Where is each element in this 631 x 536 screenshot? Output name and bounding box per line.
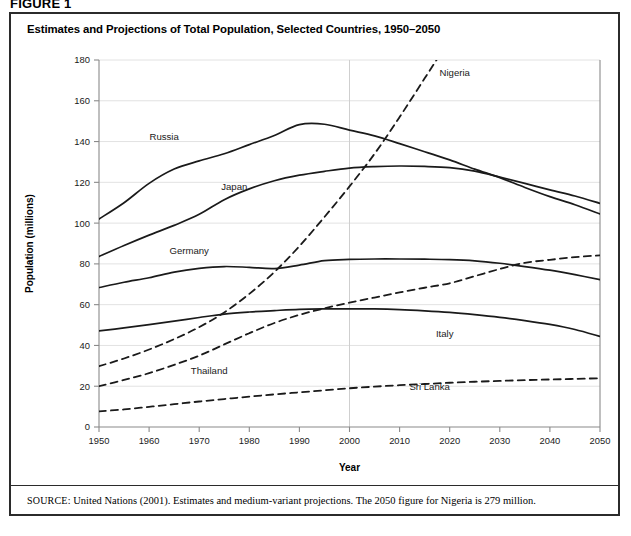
- chart-title: Estimates and Projections of Total Popul…: [27, 23, 440, 35]
- x-axis-title: Year: [339, 462, 360, 473]
- series-label-germany: Germany: [169, 245, 209, 256]
- series-label-sri-lanka: Sri Lanka: [409, 381, 450, 392]
- y-tick-label-160: 160: [74, 95, 90, 106]
- series-label-thailand: Thailand: [191, 365, 228, 376]
- y-tick-label-120: 120: [74, 177, 90, 188]
- x-tick-label-2030: 2030: [489, 435, 510, 446]
- y-tick-label-20: 20: [80, 381, 90, 392]
- x-tick-label-1980: 1980: [239, 435, 260, 446]
- y-tick-label-100: 100: [74, 218, 90, 229]
- x-tick-label-2010: 2010: [389, 435, 410, 446]
- population-line-chart: 0204060801001201401601801950196019701980…: [11, 44, 618, 484]
- source-text: United Nations (2001). Estimates and med…: [71, 495, 536, 506]
- x-tick-label-1990: 1990: [289, 435, 310, 446]
- y-axis-title: Population (millions): [24, 194, 35, 293]
- x-tick-label-1950: 1950: [89, 435, 110, 446]
- source-divider: [11, 485, 618, 486]
- x-tick-label-1970: 1970: [189, 435, 210, 446]
- y-tick-label-180: 180: [74, 54, 90, 65]
- series-label-japan: Japan: [221, 181, 247, 192]
- y-tick-label-80: 80: [80, 258, 90, 269]
- x-tick-label-2020: 2020: [439, 435, 460, 446]
- series-label-russia: Russia: [149, 131, 179, 142]
- source-keyword: SOURCE:: [27, 495, 71, 506]
- x-tick-label-2050: 2050: [590, 435, 611, 446]
- series-label-nigeria: Nigeria: [440, 67, 471, 78]
- x-tick-label-1960: 1960: [139, 435, 160, 446]
- figure-label: FIGURE 1: [10, 0, 72, 11]
- chart-plot-area: 0204060801001201401601801950196019701980…: [11, 44, 618, 484]
- y-tick-label-60: 60: [80, 299, 90, 310]
- x-tick-label-2040: 2040: [539, 435, 560, 446]
- y-tick-label-140: 140: [74, 136, 90, 147]
- series-label-italy: Italy: [436, 328, 454, 339]
- figure-box: Estimates and Projections of Total Popul…: [9, 12, 620, 516]
- y-tick-label-0: 0: [85, 421, 90, 432]
- source-note: SOURCE: United Nations (2001). Estimates…: [27, 495, 536, 506]
- y-tick-label-40: 40: [80, 340, 90, 351]
- x-tick-label-2000: 2000: [339, 435, 360, 446]
